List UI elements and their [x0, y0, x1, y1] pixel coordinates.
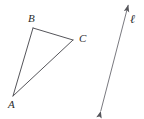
geometry-figure: A B C ℓ: [0, 0, 144, 119]
vertex-label-a: A: [8, 99, 15, 110]
vertex-label-c: C: [79, 33, 86, 44]
triangle-ABC: [13, 28, 73, 96]
segment-BC: [33, 28, 73, 40]
segment-CA: [13, 40, 73, 96]
figure-canvas: [0, 0, 144, 119]
line-label-ell: ℓ: [130, 13, 135, 25]
vertex-label-b: B: [28, 13, 35, 24]
line-ell: [101, 5, 128, 111]
line-ell-stroke: [101, 5, 128, 111]
segment-AB: [13, 28, 33, 96]
